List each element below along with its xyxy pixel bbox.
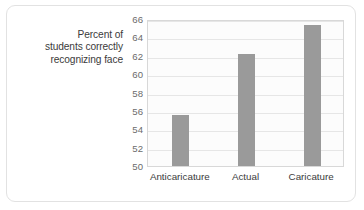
- bar-anticaricature: [172, 115, 189, 166]
- y-tick-label-66: 66: [119, 15, 143, 25]
- y-axis-title: Percent of students correctly recognizin…: [15, 29, 123, 66]
- figure-card: Percent of students correctly recognizin…: [6, 5, 356, 202]
- x-tick-label-caricature: Caricature: [289, 171, 334, 183]
- y-tick-label-58: 58: [119, 89, 143, 99]
- y-tick-label-60: 60: [119, 70, 143, 80]
- plot-area: [147, 20, 344, 167]
- y-tick-label-52: 52: [119, 144, 143, 154]
- bar-caricature: [304, 25, 321, 166]
- y-tick-label-62: 62: [119, 52, 143, 62]
- y-tick-label-50: 50: [119, 162, 143, 172]
- x-axis-tick-labels: AnticaricatureActualCaricature: [147, 171, 344, 187]
- y-axis-title-line-3: recognizing face: [15, 54, 123, 66]
- x-tick-label-anticaricature: Anticaricature: [150, 171, 210, 183]
- bar-actual: [238, 54, 255, 166]
- y-tick-label-56: 56: [119, 107, 143, 117]
- x-tick-label-actual: Actual: [232, 171, 259, 183]
- y-axis-tick-labels: 505254565860626466: [119, 20, 143, 167]
- bar-series: [148, 21, 343, 166]
- y-tick-label-64: 64: [119, 34, 143, 44]
- y-axis-title-line-2: students correctly: [15, 41, 123, 53]
- y-tick-label-54: 54: [119, 125, 143, 135]
- y-axis-title-line-1: Percent of: [15, 29, 123, 41]
